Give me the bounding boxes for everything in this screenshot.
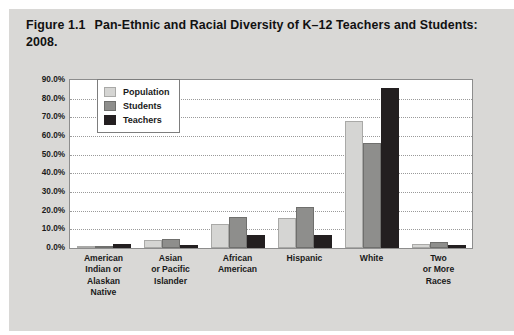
bar-group (338, 80, 405, 248)
bar-group (204, 80, 271, 248)
figure-container: Figure 1.1Pan-Ethnic and Racial Diversit… (0, 0, 514, 335)
bar-teachers (113, 244, 131, 248)
y-axis-tick-label: 90.0% (27, 75, 69, 84)
legend-item-teachers: Teachers (104, 113, 170, 127)
x-axis-label: Twoor MoreRaces (405, 253, 472, 299)
x-axis-label: Asianor PacificIslander (137, 253, 204, 299)
bar-population (278, 218, 296, 248)
figure-caption: Figure 1.1Pan-Ethnic and Racial Diversit… (26, 17, 486, 50)
y-axis: 90.0%80.0%70.0%60.0%50.0%40.0%30.0%20.0%… (26, 79, 69, 249)
bar-population (144, 240, 162, 248)
x-axis-label: White (338, 253, 405, 299)
bar-students (162, 239, 180, 248)
y-axis-tick-label: 50.0% (27, 149, 69, 158)
page-margin-bottom (0, 331, 514, 335)
figure-number: Figure 1.1 (26, 18, 86, 32)
bar-group (271, 80, 338, 248)
y-axis-tick-label: 40.0% (27, 168, 69, 177)
bar-teachers (247, 235, 265, 248)
bar-students (430, 242, 448, 248)
bar-teachers (314, 235, 332, 248)
chart-legend: PopulationStudentsTeachers (97, 79, 180, 133)
legend-swatch-icon (104, 101, 116, 111)
x-axis-label: Hispanic (271, 253, 338, 299)
bar-population (345, 121, 363, 248)
y-axis-tick-label: 0.0% (27, 243, 69, 252)
bar-students (363, 143, 381, 248)
figure-title: Pan-Ethnic and Racial Diversity of K–12 … (26, 18, 478, 49)
bar-chart: 90.0%80.0%70.0%60.0%50.0%40.0%30.0%20.0%… (26, 70, 488, 315)
bar-population (211, 224, 229, 248)
legend-label: Teachers (123, 115, 162, 125)
page-margin-left (0, 0, 9, 335)
y-axis-tick-label: 30.0% (27, 187, 69, 196)
y-axis-tick-label: 60.0% (27, 131, 69, 140)
y-axis-tick-label: 20.0% (27, 205, 69, 214)
y-axis-tick-label: 80.0% (27, 93, 69, 102)
bar-students (229, 217, 247, 248)
x-axis-label: AfricanAmerican (204, 253, 271, 299)
legend-swatch-icon (104, 115, 116, 125)
page-margin-top (0, 0, 514, 9)
bar-population (77, 246, 95, 248)
bar-students (296, 207, 314, 248)
bar-group (405, 80, 472, 248)
bar-teachers (381, 88, 399, 248)
bar-teachers (180, 245, 198, 248)
legend-item-students: Students (104, 99, 170, 113)
y-axis-tick-label: 70.0% (27, 112, 69, 121)
legend-label: Population (123, 87, 170, 97)
legend-swatch-icon (104, 87, 116, 97)
bar-students (95, 246, 113, 248)
y-axis-tick-label: 10.0% (27, 224, 69, 233)
x-axis-label: AmericanIndian orAlaskanNative (70, 253, 137, 299)
legend-item-population: Population (104, 85, 170, 99)
legend-label: Students (123, 101, 162, 111)
x-axis-labels: AmericanIndian orAlaskanNativeAsianor Pa… (70, 253, 472, 299)
bar-teachers (448, 245, 466, 248)
bar-population (412, 244, 430, 248)
